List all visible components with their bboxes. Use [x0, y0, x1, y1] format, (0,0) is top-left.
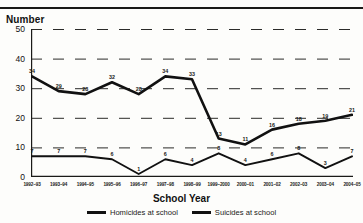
- chart-legend: Homicides at schoolSuicides at school: [0, 208, 363, 217]
- x-tick-label: 1994–95: [73, 182, 97, 187]
- x-tick-label: 2004–05: [340, 182, 363, 187]
- x-tick-label: 1998–99: [180, 182, 204, 187]
- data-value-label: 1: [137, 166, 140, 172]
- data-value-label: 19: [322, 113, 328, 119]
- x-tick-label: 2000–01: [233, 182, 257, 187]
- x-tick-label: 1997–98: [153, 182, 177, 187]
- x-tick-label: 1995–96: [100, 182, 124, 187]
- data-value-label: 11: [242, 136, 248, 142]
- legend-label: Suicides at school: [215, 208, 276, 217]
- data-value-label: 33: [189, 71, 195, 77]
- y-axis-ticks: 01020304050: [0, 29, 29, 177]
- title-divider: [0, 7, 363, 9]
- data-value-label: 21: [349, 107, 355, 113]
- legend-line-swatch: [192, 211, 211, 213]
- data-value-label: 7: [57, 148, 60, 154]
- data-value-label: 3: [324, 160, 327, 166]
- data-value-label: 34: [162, 68, 168, 74]
- data-value-label: 7: [31, 148, 34, 154]
- y-tick-label: 20: [16, 113, 25, 123]
- data-value-label: 16: [269, 122, 275, 128]
- data-value-label: 13: [216, 131, 222, 137]
- x-axis-label: School Year: [0, 193, 363, 204]
- data-value-label: 8: [297, 145, 300, 151]
- y-tick-label: 50: [16, 24, 25, 34]
- data-value-label: 4: [191, 157, 194, 163]
- x-tick-label: 1999–2000: [207, 182, 231, 187]
- data-value-label: 28: [82, 86, 88, 92]
- x-tick-label: 1992–93: [20, 182, 44, 187]
- data-value-label: 8: [217, 145, 220, 151]
- x-tick-label: 2001–02: [260, 182, 284, 187]
- data-value-label: 32: [109, 74, 115, 80]
- y-tick-label: 30: [16, 83, 25, 93]
- chart-plot-area: [31, 29, 353, 177]
- y-tick-label: 10: [16, 142, 25, 152]
- y-tick-label: 0: [20, 172, 25, 182]
- legend-label: Homicides at school: [110, 208, 178, 217]
- data-value-label: 28: [136, 86, 142, 92]
- y-axis-label: Number: [6, 14, 44, 25]
- legend-item-1: Suicides at school: [192, 208, 276, 217]
- x-tick-label: 2002–03: [287, 182, 311, 187]
- data-value-label: 6: [111, 151, 114, 157]
- data-value-label: 6: [164, 151, 167, 157]
- chart-svg: [31, 29, 353, 177]
- data-value-label: 4: [244, 157, 247, 163]
- data-value-label: 34: [29, 68, 35, 74]
- chart-title-bar: Homicides and suicides at school: [0, 0, 363, 11]
- legend-line-swatch: [87, 211, 106, 214]
- x-tick-label: 2003–04: [313, 182, 337, 187]
- x-axis-ticks: 1992–931993–941994–951995–961996–971997–…: [31, 182, 353, 193]
- legend-item-0: Homicides at school: [87, 208, 178, 217]
- x-tick-label: 1996–97: [127, 182, 151, 187]
- data-value-label: 18: [296, 116, 302, 122]
- data-value-label: 7: [84, 148, 87, 154]
- data-value-label: 29: [56, 83, 62, 89]
- page-title: Homicides and suicides at school: [0, 0, 363, 1]
- x-tick-label: 1993–94: [47, 182, 71, 187]
- data-value-label: 6: [271, 151, 274, 157]
- data-value-label: 7: [351, 148, 354, 154]
- series-line-0: [32, 76, 352, 144]
- y-tick-label: 40: [16, 54, 25, 64]
